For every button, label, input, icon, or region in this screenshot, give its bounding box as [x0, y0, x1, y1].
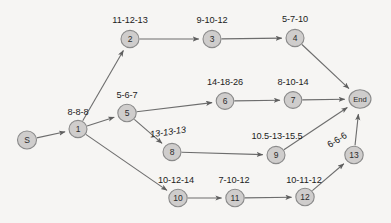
edge-label-5-to-8: 13-13-13 — [149, 124, 187, 139]
node-3[interactable]: 3 — [203, 30, 221, 47]
node-9[interactable]: 9 — [267, 146, 285, 163]
node-End[interactable]: End — [349, 90, 371, 108]
edge-label-11-to-12: 10-11-12 — [286, 175, 321, 185]
edge-7-to-End — [302, 99, 345, 100]
edge-label-3-to-4: 5-7-10 — [282, 14, 308, 24]
node-label-3: 3 — [210, 34, 215, 44]
edge-S-to-1 — [37, 132, 65, 138]
edge-label-8-to-9: 10.5-13-15.5 — [252, 131, 303, 141]
node-label-9: 9 — [274, 150, 279, 160]
edge-label-5-to-6: 14-18-26 — [207, 77, 243, 87]
node-label-7: 7 — [291, 95, 296, 105]
node-label-10: 10 — [173, 193, 183, 203]
network-diagram-canvas: S12345678910111213End 8-8-811-12-139-10-… — [0, 0, 391, 223]
node-label-End: End — [353, 95, 367, 104]
edge-label-2-to-3: 9-10-12 — [197, 15, 228, 25]
node-4[interactable]: 4 — [286, 29, 304, 46]
edge-11-to-12 — [245, 197, 292, 198]
node-2[interactable]: 2 — [121, 30, 139, 47]
edge-3-to-4 — [222, 38, 282, 39]
node-label-12: 12 — [300, 192, 310, 202]
edge-label-6-to-7: 8-10-14 — [278, 77, 309, 87]
node-1[interactable]: 1 — [69, 120, 87, 137]
edge-label-S-to-1: 8-8-8 — [68, 107, 89, 117]
edge-8-to-9 — [182, 152, 263, 154]
node-10[interactable]: 10 — [169, 189, 187, 207]
node-13[interactable]: 13 — [345, 146, 363, 164]
node-label-4: 4 — [293, 33, 298, 43]
node-S[interactable]: S — [18, 131, 37, 149]
edge-5-to-6 — [137, 103, 212, 112]
node-7[interactable]: 7 — [284, 92, 302, 109]
edge-label-1-to-2: 11-12-13 — [112, 15, 147, 25]
node-6[interactable]: 6 — [216, 93, 234, 110]
network-diagram-svg: S12345678910111213End 8-8-811-12-139-10-… — [0, 0, 391, 223]
node-label-5: 5 — [125, 108, 130, 118]
node-label-8: 8 — [170, 147, 175, 157]
edge-1-to-5 — [87, 117, 114, 126]
node-label-1: 1 — [76, 124, 81, 134]
edge-1-to-2 — [83, 50, 124, 120]
node-label-11: 11 — [231, 193, 240, 203]
node-label-13: 13 — [349, 150, 359, 160]
edge-label-13-to-End: 6-6-6 — [325, 130, 348, 150]
edge-label-1-to-10: 10-12-14 — [158, 175, 194, 185]
edge-13-to-End — [355, 114, 358, 145]
node-label-6: 6 — [223, 96, 228, 106]
node-label-2: 2 — [128, 34, 133, 44]
edge-1-to-10 — [86, 134, 167, 190]
edge-4-to-End — [302, 45, 349, 89]
edge-label-1-to-5: 5-6-7 — [117, 90, 138, 100]
node-label-S: S — [24, 135, 30, 145]
edge-label-10-to-11: 7-10-12 — [219, 175, 250, 185]
node-8[interactable]: 8 — [163, 143, 181, 160]
node-5[interactable]: 5 — [118, 104, 136, 122]
edge-6-to-7 — [234, 100, 280, 101]
node-11[interactable]: 11 — [226, 189, 244, 207]
node-12[interactable]: 12 — [296, 188, 314, 206]
